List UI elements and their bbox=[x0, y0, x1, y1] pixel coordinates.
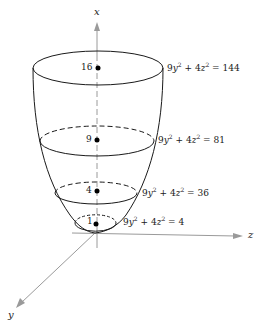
level-label-16: 16 bbox=[81, 62, 92, 72]
x-axis-label: x bbox=[94, 6, 100, 17]
point-1 bbox=[94, 222, 99, 227]
y-axis-arrow-icon bbox=[16, 298, 25, 308]
y-axis-line bbox=[21, 233, 95, 303]
eq-rhs: 4 bbox=[179, 217, 185, 227]
eq-rhs: 81 bbox=[214, 135, 225, 145]
level-curve-4-front bbox=[55, 193, 137, 204]
equation-level-4: 9y2 + 4z2 = 36 bbox=[142, 188, 209, 198]
equation-level-1: 9y2 + 4z2 = 4 bbox=[123, 217, 184, 227]
equation-level-16: 9y2 + 4z2 = 144 bbox=[167, 63, 240, 73]
y-axis-label: y bbox=[8, 309, 14, 320]
diagram-canvas bbox=[0, 0, 261, 329]
x-axis-arrow-icon bbox=[94, 22, 100, 31]
eq-rhs: 36 bbox=[198, 188, 209, 198]
point-4 bbox=[95, 189, 100, 194]
paraboloid-diagram: x z y 16 9 4 1 9y2 + 4z2 = 144 9y2 + 4z2… bbox=[0, 0, 261, 329]
z-axis-arrow-icon bbox=[233, 233, 243, 239]
level-label-1: 1 bbox=[87, 216, 93, 226]
level-label-9: 9 bbox=[86, 134, 92, 144]
level-label-4: 4 bbox=[86, 185, 92, 195]
surface-left-profile bbox=[33, 68, 95, 233]
point-16 bbox=[96, 66, 101, 71]
eq-rhs: 144 bbox=[223, 63, 240, 73]
z-axis-label: z bbox=[248, 229, 253, 240]
equation-level-9: 9y2 + 4z2 = 81 bbox=[158, 135, 225, 145]
point-9 bbox=[95, 138, 100, 143]
surface-right-profile bbox=[95, 68, 163, 233]
